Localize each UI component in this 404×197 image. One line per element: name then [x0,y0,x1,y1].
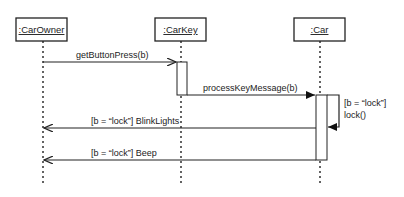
message-blinklights: [b = “lock”] BlinkLights [44,116,316,128]
message-beep: [b = “lock”] Beep [44,148,316,160]
message-getbuttonpress-label: getButtonPress(b) [76,50,149,60]
object-car-label: :Car [311,24,329,35]
object-carkey-label: :CarKey [163,24,198,35]
message-self-lock-label: lock() [344,110,366,120]
activation-car [316,95,327,160]
object-car: :Car [294,18,345,41]
message-self-lock: [b = “lock”] lock() [327,95,386,127]
object-carkey: :CarKey [155,18,206,41]
object-carowner-label: :CarOwner [19,24,65,35]
sequence-diagram: :CarOwner :CarKey :Car getButtonPress(b)… [0,0,404,197]
message-blinklights-label: [b = “lock”] BlinkLights [91,116,180,126]
object-carowner: :CarOwner [16,18,67,41]
message-beep-label: [b = “lock”] Beep [91,148,157,158]
activation-carkey [177,62,187,95]
message-processkeymessage: processKeyMessage(b) [187,83,315,95]
message-self-lock-guard: [b = “lock”] [344,98,386,108]
message-processkeymessage-label: processKeyMessage(b) [203,83,298,93]
message-getbuttonpress: getButtonPress(b) [43,50,176,62]
